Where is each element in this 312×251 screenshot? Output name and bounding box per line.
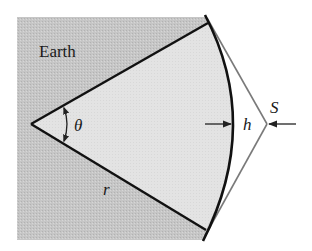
earth-label: Earth [39, 42, 76, 61]
height-label: h [243, 115, 252, 134]
radius-label: r [103, 180, 110, 199]
satellite-label: S [270, 98, 279, 117]
angle-theta-label: θ [74, 116, 82, 135]
earth-satellite-diagram: Earth θ r h S [0, 0, 312, 251]
